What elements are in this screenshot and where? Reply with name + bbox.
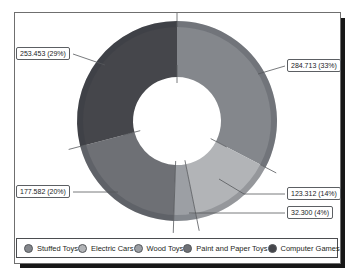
legend-item-computer-games[interactable]: Computer Games <box>268 244 340 253</box>
callout-electric-cars: 123.312 (14%) <box>287 187 341 200</box>
legend-swatch-icon <box>78 244 87 253</box>
callout-paint-and-paper-toys: 177.582 (20%) <box>16 185 70 198</box>
callout-wood-toys: 32.300 (4%) <box>287 206 333 219</box>
legend: Stuffed ToysElectric CarsWood ToysPaint … <box>16 238 338 258</box>
legend-swatch-icon <box>268 244 277 253</box>
legend-item-stuffed-toys[interactable]: Stuffed Toys <box>24 244 78 253</box>
legend-item-wood-toys[interactable]: Wood Toys <box>134 244 184 253</box>
legend-item-paint-and-paper-toys[interactable]: Paint and Paper Toys <box>183 244 267 253</box>
legend-swatch-icon <box>134 244 143 253</box>
callout-stuffed-toys: 284.713 (33%) <box>287 59 341 72</box>
legend-swatch-icon <box>183 244 192 253</box>
legend-label: Wood Toys <box>147 244 184 253</box>
callout-computer-games: 253.453 (29%) <box>16 47 70 60</box>
legend-label: Computer Games <box>281 244 340 253</box>
legend-label: Paint and Paper Toys <box>196 244 267 253</box>
legend-label: Electric Cars <box>91 244 134 253</box>
legend-label: Stuffed Toys <box>37 244 78 253</box>
legend-swatch-icon <box>24 244 33 253</box>
chart-frame: 284.713 (33%)123.312 (14%)32.300 (4%)177… <box>14 12 341 264</box>
figure: 284.713 (33%)123.312 (14%)32.300 (4%)177… <box>0 0 356 273</box>
legend-item-electric-cars[interactable]: Electric Cars <box>78 244 134 253</box>
callout-layer: 284.713 (33%)123.312 (14%)32.300 (4%)177… <box>15 13 340 263</box>
